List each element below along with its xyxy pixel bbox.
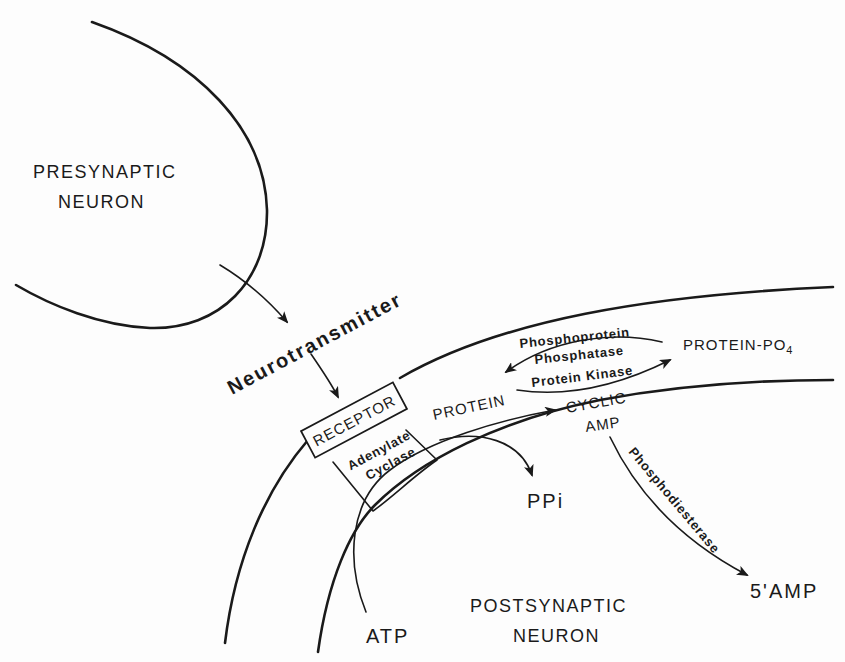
amp-label: AMP bbox=[584, 413, 622, 435]
synapse-diagram: RECEPTOR Adenylate Cyclase PRESYNAPTIC N… bbox=[0, 0, 845, 662]
postsynaptic-label: POSTSYNAPTIC bbox=[470, 596, 627, 616]
ppi-arrow bbox=[440, 436, 532, 475]
presynaptic-neuron-label: NEURON bbox=[58, 192, 145, 212]
protein-label: PROTEIN bbox=[431, 391, 507, 423]
protein-po4-label: PROTEIN-PO4 bbox=[683, 336, 793, 356]
protein-kinase-label: Protein Kinase bbox=[531, 363, 634, 390]
neurotransmitter-label: Neurotransmitter bbox=[224, 288, 406, 399]
release-arrow bbox=[220, 265, 287, 322]
binding-arrow bbox=[311, 354, 338, 397]
diagram-canvas: RECEPTOR Adenylate Cyclase PRESYNAPTIC N… bbox=[0, 0, 845, 662]
five-amp-label: 5'AMP bbox=[750, 580, 818, 602]
atp-label: ATP bbox=[366, 625, 409, 647]
postsynaptic-neuron-label: NEURON bbox=[513, 626, 600, 646]
ppi-label: PPi bbox=[527, 490, 564, 512]
presynaptic-label: PRESYNAPTIC bbox=[33, 162, 177, 182]
phosphodiesterase-label: Phosphodiesterase bbox=[626, 444, 723, 556]
cyclic-label: CYCLIC bbox=[565, 389, 628, 416]
